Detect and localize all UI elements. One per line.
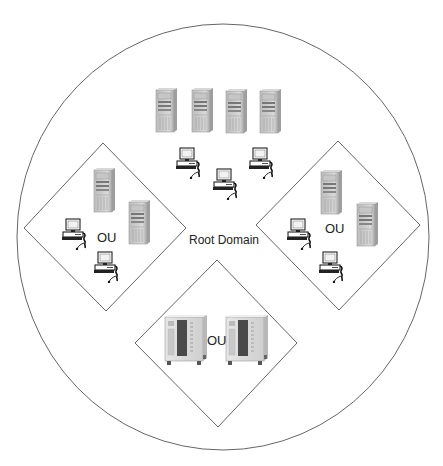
- workstation-icon: [249, 148, 272, 179]
- workstation-icon: [62, 219, 85, 250]
- workstation-icon: [319, 252, 342, 283]
- workstation-icon: [94, 252, 117, 283]
- server-tower-icon: [156, 88, 177, 132]
- workstation-icon: [287, 219, 310, 250]
- ou-label-left: OU: [97, 231, 117, 244]
- server-tower-icon: [260, 89, 281, 133]
- ou-label-bottom: OU: [207, 334, 227, 347]
- server-tower-icon: [226, 89, 247, 133]
- server-cabinet-icon: [165, 315, 207, 365]
- server-tower-icon: [192, 88, 213, 132]
- workstation-icon: [176, 148, 199, 179]
- server-tower-icon: [129, 200, 150, 244]
- server-tower-icon: [357, 202, 378, 246]
- root-domain-label: Root Domain: [189, 234, 259, 246]
- server-tower-icon: [94, 168, 115, 212]
- workstation-icon: [213, 169, 236, 200]
- ou-label-right: OU: [325, 222, 345, 235]
- server-cabinet-icon: [226, 315, 268, 365]
- domain-diagram: Root Domain OU OU OU: [0, 0, 443, 466]
- server-tower-icon: [321, 170, 342, 214]
